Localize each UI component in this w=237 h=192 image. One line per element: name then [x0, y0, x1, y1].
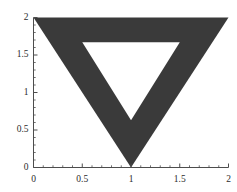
- plot-figure: 00.511.52 00.511.52: [0, 0, 237, 192]
- y-axis-tick-label: 1: [24, 88, 29, 98]
- x-axis-tick-label: 0.5: [76, 175, 88, 185]
- x-axis-tick-label: 2: [226, 175, 231, 185]
- x-axis-tick-label: 1.5: [174, 175, 186, 185]
- y-axis-tick-label: 2: [24, 13, 29, 23]
- x-axis-tick-label: 1: [129, 175, 134, 185]
- y-axis-tick-label: 0: [24, 163, 29, 173]
- x-axis-tick-label: 0: [31, 175, 36, 185]
- shapes-layer: [34, 18, 229, 168]
- y-axis-tick-label: 0.5: [17, 125, 29, 135]
- plot-canvas: [0, 0, 237, 192]
- y-axis-tick-label: 1.5: [17, 50, 29, 60]
